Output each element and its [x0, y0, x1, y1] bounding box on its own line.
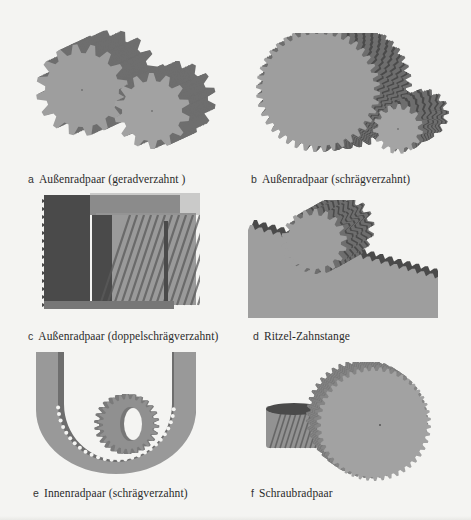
figure-panel-c [40, 193, 200, 315]
caption-letter: b [251, 173, 257, 185]
caption-text: Außenradpaar (doppelschrägverzahnt) [38, 330, 218, 342]
internal-gear-pair-illustration [36, 352, 201, 477]
crossed-helical-gear-pair-illustration [258, 362, 438, 482]
caption-c: cAußenradpaar (doppelschrägverzahnt) [28, 330, 218, 342]
caption-text: Außenradpaar (geradverzahnt ) [39, 173, 186, 185]
figure-panel-f [258, 362, 438, 482]
figure-panel-a [30, 30, 220, 160]
caption-letter: d [253, 330, 259, 342]
caption-text: Ritzel-Zahnstange [264, 330, 350, 342]
caption-a: aAußenradpaar (geradverzahnt ) [28, 173, 186, 185]
caption-letter: e [33, 487, 39, 499]
scan-edge [0, 516, 471, 520]
caption-letter: c [28, 330, 33, 342]
figure-panel-e [36, 352, 201, 477]
helical-gear-pair-illustration [250, 28, 450, 160]
double-helical-gear-pair-illustration [40, 193, 200, 315]
spur-gear-pair-illustration [30, 30, 220, 160]
figure-panel-b [250, 28, 450, 160]
caption-b: bAußenradpaar (schrägverzahnt) [251, 173, 410, 185]
caption-text: Schraubradpaar [259, 487, 333, 499]
caption-letter: f [251, 487, 254, 499]
caption-text: Außenradpaar (schrägverzahnt) [262, 173, 410, 185]
caption-letter: a [28, 173, 34, 185]
figure-panel-d [248, 200, 438, 322]
pinion-rack-illustration [248, 200, 438, 322]
caption-e: eInnenradpaar (schrägverzahnt) [33, 487, 188, 499]
caption-text: Innenradpaar (schrägverzahnt) [44, 487, 188, 499]
caption-f: fSchraubradpaar [251, 487, 333, 499]
caption-d: dRitzel-Zahnstange [253, 330, 350, 342]
